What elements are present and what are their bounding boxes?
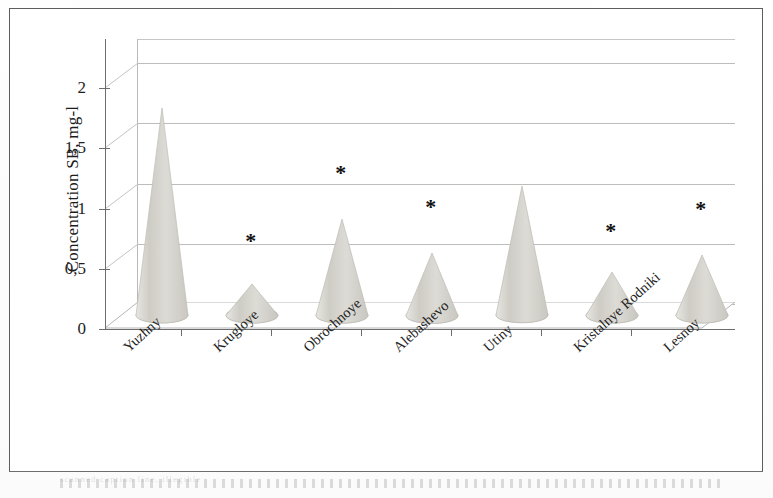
significance-asterisk: * xyxy=(335,162,346,184)
cone-bar xyxy=(133,105,191,326)
x-axis-tick xyxy=(181,329,182,336)
y-axis-line xyxy=(105,39,106,329)
y-axis-tick xyxy=(99,269,110,270)
chart-frame: ***** 00,511,52 Concentration SB, mg-l Y… xyxy=(9,8,763,472)
x-axis-tick xyxy=(451,329,452,336)
x-axis-tick xyxy=(631,329,632,336)
x-axis-tick xyxy=(271,329,272,336)
gridline xyxy=(137,123,735,124)
y-axis-tick xyxy=(99,88,110,89)
gridline xyxy=(137,184,735,185)
cone-bar xyxy=(673,252,731,326)
gridline-depth-riser xyxy=(105,63,138,90)
significance-asterisk: * xyxy=(605,220,616,242)
y-axis-tick xyxy=(99,209,110,210)
caption-remnant-text: scanned caption line, illegible xyxy=(60,474,720,484)
x-axis-tick xyxy=(541,329,542,336)
x-axis-tick xyxy=(361,329,362,336)
significance-asterisk: * xyxy=(425,196,436,218)
significance-asterisk: * xyxy=(695,198,706,220)
page-rule xyxy=(9,471,763,472)
y-axis-tick xyxy=(99,148,110,149)
gridline xyxy=(137,63,735,64)
cone-bar xyxy=(493,183,551,326)
gridline xyxy=(137,244,735,245)
significance-asterisk: * xyxy=(245,230,256,252)
y-axis-title-container: Concentration SB, mg-l xyxy=(28,29,58,329)
y-axis-title: Concentration SB, mg-l xyxy=(63,64,83,314)
